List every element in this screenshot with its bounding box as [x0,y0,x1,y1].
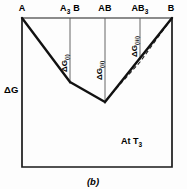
top-label-a3b: A3 B [60,3,80,15]
y-axis-label: ΔG [4,84,19,95]
delta-g-iii-label: ΔG(iii) [130,36,140,57]
top-label-ab: AB [98,3,112,13]
plot-canvas: A A3 B AB AB3 B ΔG ΔG(i) ΔG(ii) ΔG(iii) … [0,0,187,189]
delta-g-ii-label: ΔG(ii) [95,61,105,80]
top-label-a: A [19,3,26,13]
top-label-b: B [168,3,175,13]
temperature-annotation: At T3 [121,136,143,148]
free-energy-diagram-figure: A A3 B AB AB3 B ΔG ΔG(i) ΔG(ii) ΔG(iii) … [0,0,187,189]
plot-frame [22,18,172,167]
top-label-ab3: AB3 [131,3,148,15]
delta-g-i-label: ΔG(i) [60,54,70,72]
figure-caption: (b) [87,176,99,187]
free-energy-curve-solid [22,18,172,102]
